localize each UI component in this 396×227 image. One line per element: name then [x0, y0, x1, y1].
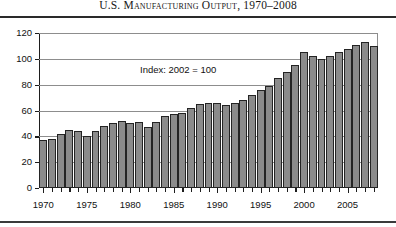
x-axis-tick [78, 188, 79, 192]
x-axis-tick-label: 1990 [197, 199, 237, 210]
x-axis-tick [200, 188, 201, 192]
bar [170, 114, 178, 188]
x-axis-tick-label: 1985 [154, 199, 194, 210]
x-axis-tick [287, 188, 288, 192]
x-axis-tick [122, 188, 123, 192]
x-axis-tick [356, 188, 357, 192]
x-axis-tick [174, 188, 175, 193]
x-axis-tick [165, 188, 166, 192]
bar [370, 46, 378, 188]
y-axis-tick-label: 60 [2, 105, 32, 116]
bar [222, 105, 230, 188]
bar [352, 45, 360, 188]
bottom-rule [0, 221, 396, 223]
bar [118, 121, 126, 188]
bar [178, 113, 186, 188]
x-axis-tick-label: 1975 [67, 199, 107, 210]
bar [39, 140, 47, 188]
bar [144, 127, 152, 188]
x-axis-tick [226, 188, 227, 192]
x-axis-tick [295, 188, 296, 192]
bar [187, 108, 195, 188]
y-axis-tick-label: 100 [2, 53, 32, 64]
x-axis-tick-label: 1995 [241, 199, 281, 210]
index-annotation: Index: 2002 = 100 [140, 64, 216, 75]
x-axis-tick [61, 188, 62, 192]
title-block: U.S. Manufacturing Output, 1970–2008 [0, 0, 396, 20]
bar [361, 42, 369, 188]
x-axis-tick [104, 188, 105, 192]
x-axis-tick [322, 188, 323, 192]
bar [309, 56, 317, 188]
y-axis-tick [35, 111, 39, 112]
x-axis-tick [365, 188, 366, 192]
x-axis-tick [139, 188, 140, 192]
bar-series [39, 33, 378, 188]
x-axis-tick [278, 188, 279, 192]
x-axis-tick [235, 188, 236, 192]
y-axis-tick [35, 136, 39, 137]
y-axis-tick [35, 59, 39, 60]
bar [318, 59, 326, 188]
bar [109, 123, 117, 188]
y-axis-tick-label: 0 [2, 182, 32, 193]
x-axis-tick-label: 2005 [328, 199, 368, 210]
x-axis-tick [348, 188, 349, 193]
x-axis-tick-label: 1970 [23, 199, 63, 210]
y-axis-tick [35, 162, 39, 163]
x-axis-tick [130, 188, 131, 193]
plot-area [39, 33, 378, 188]
x-axis-tick [269, 188, 270, 192]
x-axis-tick [339, 188, 340, 192]
x-axis-tick [191, 188, 192, 192]
y-axis-tick-label: 40 [2, 130, 32, 141]
x-axis-tick-label: 1980 [110, 199, 150, 210]
y-axis-tick-label: 80 [2, 79, 32, 90]
y-axis-tick-label: 20 [2, 156, 32, 167]
title-rule [0, 16, 396, 18]
bar [300, 52, 308, 188]
x-axis-tick [304, 188, 305, 193]
x-axis-tick [252, 188, 253, 192]
x-axis-tick [182, 188, 183, 192]
page-title: U.S. Manufacturing Output, 1970–2008 [0, 0, 396, 11]
x-axis-tick [330, 188, 331, 192]
bar [335, 52, 343, 188]
x-axis-tick [69, 188, 70, 192]
x-axis-tick [52, 188, 53, 192]
bar [274, 78, 282, 188]
bar [205, 103, 213, 188]
bar [196, 104, 204, 188]
y-axis-tick-label: 120 [2, 27, 32, 38]
bar [126, 123, 134, 188]
x-axis-tick [209, 188, 210, 192]
x-axis-tick [313, 188, 314, 192]
bar [92, 131, 100, 188]
bar [257, 90, 265, 188]
x-axis-tick [217, 188, 218, 193]
bar [152, 122, 160, 188]
bar [48, 139, 56, 188]
y-axis-tick [35, 188, 39, 189]
figure: U.S. Manufacturing Output, 1970–2008 Ind… [0, 0, 396, 227]
y-axis-tick [35, 33, 39, 34]
x-axis-tick [96, 188, 97, 192]
bar [100, 126, 108, 188]
bar [248, 95, 256, 188]
x-axis-tick [374, 188, 375, 192]
bar [265, 86, 273, 188]
bar [135, 122, 143, 188]
bar [239, 100, 247, 188]
bar [326, 56, 334, 188]
x-axis-tick [87, 188, 88, 193]
bar [74, 131, 82, 188]
bar [344, 49, 352, 189]
x-axis-tick-label: 2000 [284, 199, 324, 210]
bar [231, 103, 239, 188]
x-axis-tick [113, 188, 114, 192]
bar [57, 134, 65, 188]
bar [291, 65, 299, 188]
bar [65, 130, 73, 188]
bar [283, 72, 291, 188]
bar [83, 136, 91, 188]
